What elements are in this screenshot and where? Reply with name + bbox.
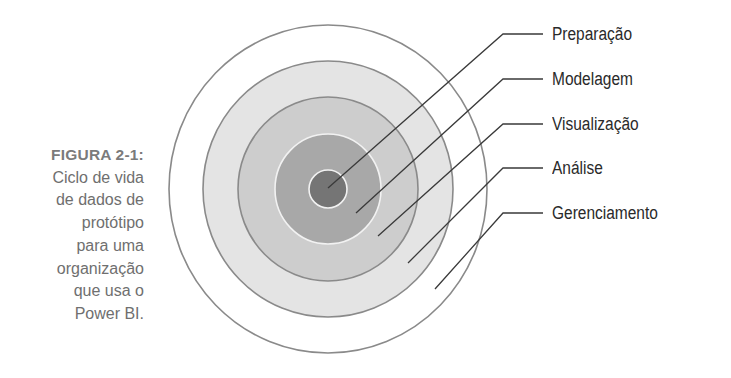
lifecycle-diagram <box>0 0 731 378</box>
label-modelagem: Modelagem <box>552 69 633 89</box>
label-visualizacao: Visualização <box>552 114 639 134</box>
rings-group <box>169 25 487 353</box>
label-gerenciamento: Gerenciamento <box>552 203 658 223</box>
label-preparacao: Preparação <box>552 24 632 44</box>
label-analise: Análise <box>552 158 603 178</box>
